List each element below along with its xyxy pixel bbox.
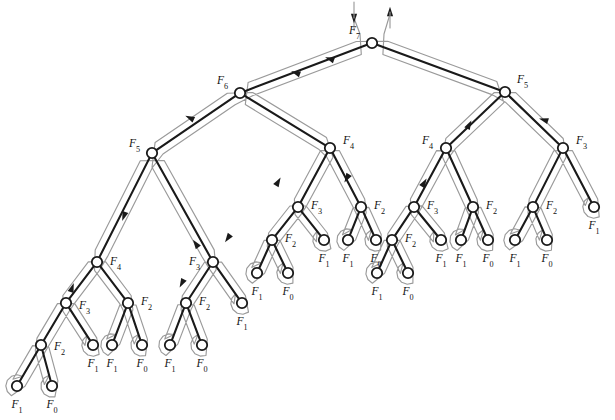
tree-node-f1[interactable] [589, 202, 599, 212]
tree-node-f2[interactable] [356, 202, 366, 212]
tree-node-f2[interactable] [528, 202, 538, 212]
tree-node-f2[interactable] [468, 202, 478, 212]
tree-node-f3[interactable] [61, 298, 71, 308]
tree-node-f1[interactable] [237, 298, 247, 308]
tree-node-f1[interactable] [319, 235, 329, 245]
fibonacci-recursion-tree-figure: F7F6F5F5F4F4F3F4F3F3F2F3F2F2F1F3F2F2F1F2… [0, 0, 615, 420]
tree-node-f1[interactable] [165, 340, 175, 350]
tree-node-f4[interactable] [92, 257, 102, 267]
tree-node-f1[interactable] [252, 268, 262, 278]
tree-node-f5[interactable] [500, 87, 510, 97]
tree-node-f3[interactable] [558, 143, 568, 153]
tree-node-f1[interactable] [12, 381, 22, 391]
tree-node-f0[interactable] [197, 340, 207, 350]
recursion-tree-canvas: F7F6F5F5F4F4F3F4F3F3F2F3F2F2F1F3F2F2F1F2… [0, 0, 615, 420]
tree-node-f4[interactable] [441, 143, 451, 153]
tree-node-f0[interactable] [403, 268, 413, 278]
tree-node-f1[interactable] [107, 340, 117, 350]
tree-node-f5[interactable] [147, 148, 157, 158]
tree-node-f1[interactable] [456, 235, 466, 245]
tree-node-f2[interactable] [36, 340, 46, 350]
tree-node-f3[interactable] [293, 202, 303, 212]
tree-node-f2[interactable] [387, 235, 397, 245]
tree-node-f7[interactable] [367, 38, 377, 48]
tree-node-f4[interactable] [325, 143, 335, 153]
tree-node-f2[interactable] [181, 298, 191, 308]
tree-node-f0[interactable] [283, 268, 293, 278]
tree-node-f0[interactable] [542, 235, 552, 245]
tree-node-f2[interactable] [123, 298, 133, 308]
tree-node-f1[interactable] [510, 235, 520, 245]
tree-node-f3[interactable] [409, 202, 419, 212]
tree-node-f0[interactable] [371, 235, 381, 245]
tree-node-f3[interactable] [208, 257, 218, 267]
tree-node-f1[interactable] [436, 235, 446, 245]
tree-node-f1[interactable] [88, 340, 98, 350]
tree-node-f1[interactable] [343, 235, 353, 245]
tree-node-f0[interactable] [483, 235, 493, 245]
tree-node-f1[interactable] [372, 268, 382, 278]
tree-node-f6[interactable] [235, 88, 245, 98]
tree-node-f0[interactable] [137, 340, 147, 350]
tree-node-f0[interactable] [47, 381, 57, 391]
tree-node-f2[interactable] [267, 235, 277, 245]
